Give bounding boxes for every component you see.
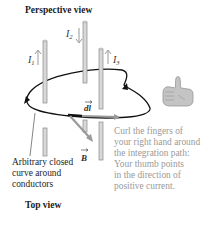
note-line: in the direction of (114, 170, 200, 181)
dl-segment (68, 115, 82, 116)
current-label-i1: I1 (27, 54, 35, 66)
dl-extension (82, 116, 118, 117)
top-view-title: Top view (25, 200, 61, 210)
caption-line: curve around (12, 168, 73, 179)
note-line: Your thumb points (114, 159, 200, 170)
b-label: B (80, 153, 87, 163)
closed-curve-caption: Arbitrary closed curve around conductors (12, 157, 73, 189)
current-label-i3: I3 (112, 54, 120, 66)
note-line: your right hand around (114, 137, 200, 148)
note-line: the integration path: (114, 148, 200, 159)
right-hand-rule-note: Curl the fingers of your right hand arou… (114, 126, 200, 192)
conductor-lower-parts (43, 120, 103, 160)
caption-line: Arbitrary closed (12, 157, 73, 168)
note-line: Curl the fingers of (114, 126, 200, 137)
current-label-i2: I2 (65, 28, 73, 40)
dl-label: dl (84, 103, 92, 113)
caption-line: conductors (12, 179, 73, 190)
right-hand-thumbs-up-icon (163, 77, 193, 106)
caption-leader-line (30, 113, 35, 156)
note-line: positive current. (114, 181, 200, 192)
